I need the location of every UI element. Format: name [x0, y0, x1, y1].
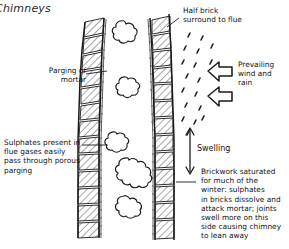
right-brick-wall: [148, 14, 174, 240]
label-sulphates: Sulphates present in flue gases easily p…: [4, 138, 84, 175]
label-parging: Parging of mortar: [28, 66, 86, 84]
chimney-diagram: Chimneys: [0, 0, 289, 249]
smoke-clouds: [112, 21, 151, 218]
label-wind: Prevailing wind and rain: [238, 60, 288, 88]
left-brick-wall: [78, 18, 106, 238]
label-brickwork: Brickwork saturated for much of the wint…: [201, 167, 289, 241]
outer-smoke-clouds: [105, 132, 129, 152]
label-half-brick: Half brick surround to flue: [183, 6, 273, 24]
label-swelling: Swelling: [197, 144, 247, 153]
rain-droplets: [182, 33, 213, 135]
wind-arrows: [208, 62, 232, 106]
